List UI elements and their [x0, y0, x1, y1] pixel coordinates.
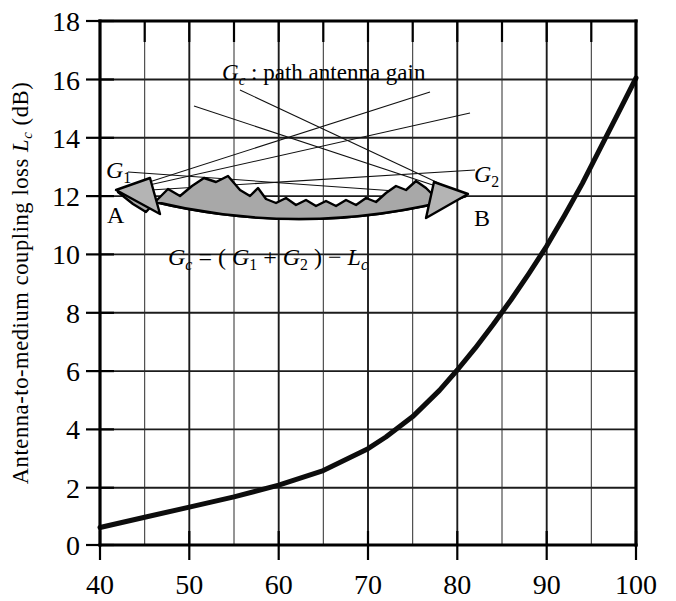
tick-marks: [86, 21, 636, 560]
x-axis-tick-labels: 40 50 60 70 80 90 100: [86, 569, 657, 600]
inset-annot-symbol: G: [222, 60, 239, 85]
y-tick-label: 6: [66, 356, 80, 387]
inset-g2-sub: 2: [491, 173, 499, 190]
y-tick-label: 0: [66, 530, 80, 561]
chart-canvas: Gc : path antenna gain G1 G2 A B Gc = ( …: [0, 0, 676, 601]
formula-plus: +: [257, 244, 283, 270]
x-tick-label: 90: [533, 569, 561, 600]
y-tick-label: 8: [66, 298, 80, 329]
y-tick-label: 12: [52, 181, 80, 212]
formula-lc-symbol: L: [347, 244, 361, 270]
formula-g1-sub: 1: [249, 256, 257, 273]
y-axis-title-group: Antenna-to-medium coupling loss Lc (dB): [8, 82, 35, 484]
y-axis-title-unit: (dB): [8, 82, 33, 132]
y-axis-tick-labels: 18 16 14 12 10 8 6 4 2 0: [52, 6, 80, 561]
inset-annot-text: path antenna gain: [263, 60, 426, 85]
inset-diagram: Gc : path antenna gain G1 G2 A B Gc = ( …: [106, 60, 499, 273]
formula-lc-sub: c: [361, 256, 368, 273]
formula-g1-symbol: G: [232, 244, 249, 270]
y-axis-title-main: Antenna-to-medium coupling loss: [8, 152, 33, 484]
y-tick-label: 14: [52, 123, 80, 154]
x-tick-marks-top: [145, 21, 592, 42]
grid-layer: [100, 21, 636, 545]
x-tick-label: 100: [615, 569, 657, 600]
inset-g2-symbol: G: [474, 161, 491, 187]
formula-g2-sub: 2: [300, 256, 308, 273]
y-tick-label: 10: [52, 239, 80, 270]
x-tick-label: 70: [354, 569, 382, 600]
x-tick-label: 40: [86, 569, 114, 600]
y-axis-title: Antenna-to-medium coupling loss Lc (dB): [8, 82, 35, 484]
formula-lhs-symbol: G: [168, 244, 185, 270]
x-tick-label: 80: [443, 569, 471, 600]
y-tick-label: 4: [66, 414, 80, 445]
y-axis-title-symbol-sub: c: [19, 132, 35, 139]
inset-g1-sub: 1: [123, 169, 131, 186]
formula-lhs-sub: c: [185, 256, 192, 273]
x-tick-label: 60: [265, 569, 293, 600]
formula-eq: = (: [192, 244, 232, 270]
chart-figure: Gc : path antenna gain G1 G2 A B Gc = ( …: [0, 0, 676, 601]
y-tick-label: 18: [52, 6, 80, 37]
inset-annot-separator: :: [245, 60, 263, 85]
y-tick-label: 2: [66, 473, 80, 504]
terrain-profile: [118, 176, 466, 219]
y-axis-title-symbol: L: [8, 139, 33, 153]
beam-lines: [118, 90, 475, 196]
y-tick-label: 16: [52, 65, 80, 96]
inset-gain-g2-label: G2: [474, 161, 499, 190]
formula-g2-symbol: G: [283, 244, 300, 270]
inset-terminal-a-label: A: [107, 202, 125, 228]
x-tick-label: 50: [175, 569, 203, 600]
formula-close: ) −: [308, 244, 348, 270]
inset-terminal-b-label: B: [474, 205, 490, 231]
inset-gain-g1-label: G1: [106, 157, 131, 186]
grid-vertical-major-lines: [189, 21, 546, 545]
inset-gain-annotation: Gc : path antenna gain: [222, 60, 426, 88]
inset-g1-symbol: G: [106, 157, 123, 183]
antenna-b-symbol: [426, 182, 468, 218]
inset-coupling-formula: Gc = ( G1 + G2 ) − Lc: [168, 244, 368, 273]
